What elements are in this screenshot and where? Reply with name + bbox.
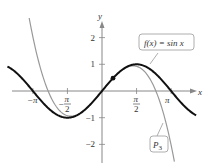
y-tick-label: −1 xyxy=(85,113,95,123)
x-tick-label: π xyxy=(165,95,170,105)
x-axis-label: x xyxy=(197,87,202,97)
f-label: f(x) = sin x xyxy=(144,38,184,48)
svg-text:π: π xyxy=(134,94,139,104)
svg-text:2: 2 xyxy=(65,104,70,114)
data-point xyxy=(111,76,116,81)
svg-text:2: 2 xyxy=(134,104,139,114)
svg-text:−: − xyxy=(58,99,63,109)
y-axis-arrow-icon xyxy=(100,21,105,28)
f-label-pointer xyxy=(150,53,158,64)
y-tick-label: 2 xyxy=(91,33,96,43)
svg-text:π: π xyxy=(64,94,69,104)
graph: x y −π−π2π2π21−1−2 f(x) = sin x P3 xyxy=(0,0,209,168)
x-tick-label: π2 xyxy=(133,94,140,114)
p3-label-pointer xyxy=(157,123,163,136)
y-axis-label: y xyxy=(97,11,102,21)
y-tick-label: 1 xyxy=(91,59,96,69)
y-tick-label: −2 xyxy=(85,139,95,149)
x-axis-arrow-icon xyxy=(190,89,197,94)
